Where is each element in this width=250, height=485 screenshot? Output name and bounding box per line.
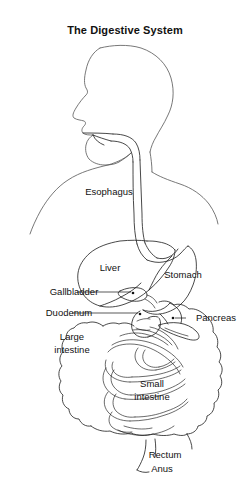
head-profile [73, 45, 173, 172]
label-stomach: Stomach [164, 269, 202, 280]
digestive-system-diagram: The Digestive System [0, 0, 250, 485]
label-liver: Liver [100, 262, 121, 273]
label-duodenum: Duodenum [46, 307, 93, 318]
esophagus-organ [133, 160, 157, 260]
pancreas-organ [159, 323, 199, 340]
label-gallbladder: Gallbladder [50, 286, 99, 297]
digestive-system-illustration: Esophagus Liver Stomach Gallbladder Duod… [0, 0, 250, 485]
label-rectum: Rectum [149, 449, 182, 460]
label-large-intestine-line2: intestine [54, 344, 89, 355]
label-anus: Anus [151, 463, 173, 474]
label-esophagus: Esophagus [85, 186, 133, 197]
label-pancreas: Pancreas [196, 312, 236, 323]
label-small-intestine-line2: intestine [134, 391, 169, 402]
label-small-intestine-line1: Small [140, 378, 164, 389]
liver-organ [78, 240, 175, 307]
pharynx-oral-cavity [93, 134, 140, 162]
label-large-intestine-line1: Large [60, 331, 84, 342]
large-intestine-organ [59, 301, 222, 449]
